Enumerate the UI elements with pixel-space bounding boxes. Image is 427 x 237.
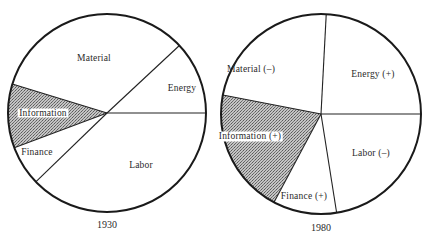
slice-label-labor: Labor (–) (352, 148, 390, 159)
year-label: 1980 (311, 222, 331, 233)
slice-label-finance: Finance (+) (281, 191, 327, 202)
slice-label-energy: Energy (168, 83, 197, 93)
pie-charts-figure: EnergyMaterialInformationFinanceLabor193… (0, 0, 427, 237)
slice-label-information: Information (+) (219, 131, 281, 142)
pie-chart-1930: EnergyMaterialInformationFinanceLabor193… (8, 14, 206, 230)
slice-label-material: Material (–) (227, 64, 275, 75)
pie-chart-1980: Energy (+)Material (–)Information (+)Fin… (217, 14, 421, 233)
slice-label-labor: Labor (129, 160, 153, 170)
year-label: 1930 (97, 219, 117, 230)
slice-labor (321, 114, 421, 213)
slice-energy (321, 14, 421, 114)
slice-label-information: Information (19, 108, 67, 118)
slice-label-energy: Energy (+) (351, 69, 394, 80)
slice-label-material: Material (77, 53, 111, 63)
slice-label-finance: Finance (21, 147, 52, 157)
